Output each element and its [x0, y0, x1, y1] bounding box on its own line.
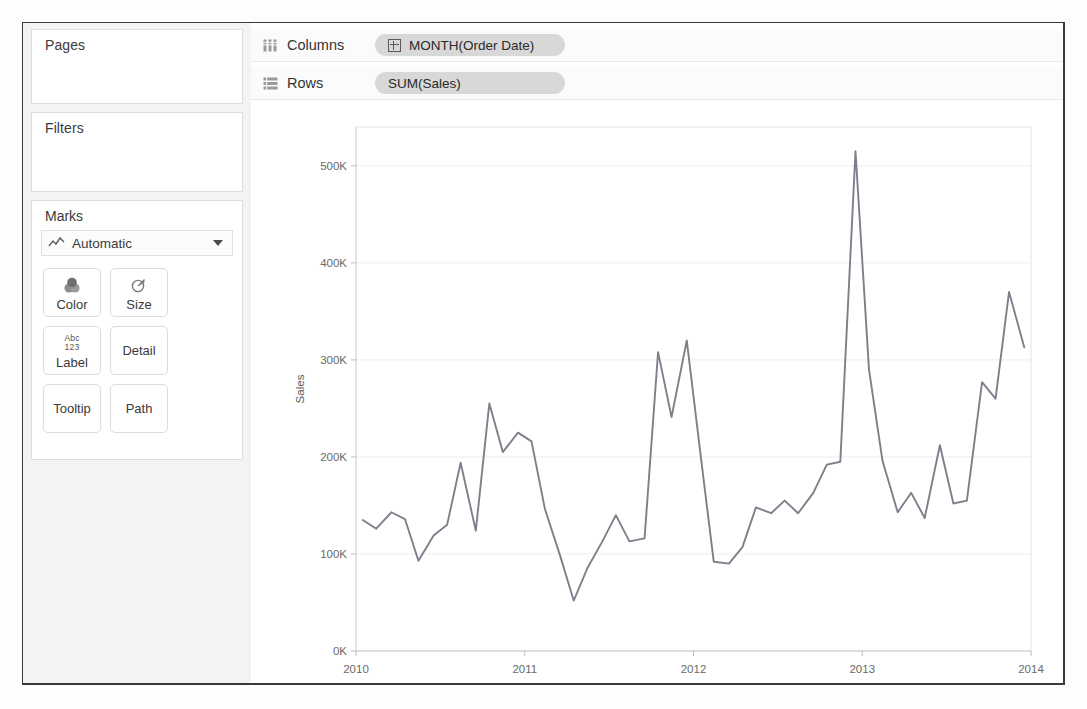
mark-type-label: Automatic	[72, 236, 132, 251]
y-tick-label: 0K	[333, 645, 347, 657]
sales-line-chart: 0K100K200K300K400K500KSales2010201120122…	[251, 105, 1066, 685]
marks-size-label: Size	[126, 297, 151, 312]
abc123-icon: Abc 123	[64, 332, 79, 354]
line-chart-icon	[48, 236, 65, 250]
rows-pill-text: SUM(Sales)	[388, 76, 461, 91]
filters-label: Filters	[32, 113, 242, 136]
y-tick-label: 300K	[320, 354, 347, 366]
columns-label: Columns	[287, 37, 375, 53]
123-text: 123	[65, 343, 80, 353]
chevron-down-icon[interactable]	[213, 240, 223, 246]
chart-container[interactable]: 0K100K200K300K400K500KSales2010201120122…	[251, 105, 1063, 683]
rows-label: Rows	[287, 75, 375, 91]
x-tick-label: 2012	[681, 663, 707, 675]
marks-label: Marks	[32, 201, 242, 230]
viz-area: Columns MONTH(Order Date) Rows	[251, 23, 1063, 683]
x-tick-label: 2010	[343, 663, 369, 675]
marks-card: Marks Automatic	[31, 200, 243, 460]
pages-label: Pages	[32, 30, 242, 53]
y-tick-label: 200K	[320, 451, 347, 463]
window-frame: Pages Filters Marks Automatic	[22, 22, 1065, 685]
columns-pill[interactable]: MONTH(Order Date)	[375, 34, 565, 56]
filters-shelf[interactable]: Filters	[31, 112, 243, 192]
x-tick-label: 2011	[512, 663, 537, 675]
color-circles-icon	[62, 274, 82, 296]
x-tick-label: 2013	[849, 663, 875, 675]
mark-buttons-grid: Color Size	[32, 256, 232, 433]
y-tick-label: 100K	[320, 548, 347, 560]
marks-tooltip-button[interactable]: Tooltip	[43, 384, 101, 433]
x-tick-label: 2014	[1018, 663, 1044, 675]
marks-label-button[interactable]: Abc 123 Label	[43, 326, 101, 375]
marks-color-label: Color	[56, 297, 87, 312]
mark-type-dropdown[interactable]: Automatic	[41, 230, 233, 256]
y-tick-label: 500K	[320, 160, 347, 172]
y-axis-title: Sales	[294, 374, 306, 403]
rows-shelf[interactable]: Rows SUM(Sales)	[251, 67, 1063, 100]
columns-shelf[interactable]: Columns MONTH(Order Date)	[251, 29, 1063, 62]
rows-icon	[263, 76, 279, 90]
marks-path-button[interactable]: Path	[110, 384, 168, 433]
x-axis-title: Month of Order Date	[641, 683, 746, 685]
marks-path-label: Path	[126, 401, 153, 416]
tableau-worksheet: Pages Filters Marks Automatic	[0, 0, 1087, 709]
left-panel: Pages Filters Marks Automatic	[23, 23, 251, 683]
marks-tooltip-label: Tooltip	[53, 401, 91, 416]
plus-box-icon[interactable]	[388, 39, 401, 52]
marks-detail-label: Detail	[122, 343, 155, 358]
size-circle-icon	[129, 274, 149, 296]
marks-color-button[interactable]: Color	[43, 268, 101, 317]
marks-label-label: Label	[56, 355, 88, 370]
pages-shelf[interactable]: Pages	[31, 29, 243, 104]
y-tick-label: 400K	[320, 257, 347, 269]
rows-pill[interactable]: SUM(Sales)	[375, 72, 565, 94]
columns-icon	[263, 38, 279, 52]
marks-detail-button[interactable]: Detail	[110, 326, 168, 375]
marks-size-button[interactable]: Size	[110, 268, 168, 317]
columns-pill-text: MONTH(Order Date)	[409, 38, 534, 53]
